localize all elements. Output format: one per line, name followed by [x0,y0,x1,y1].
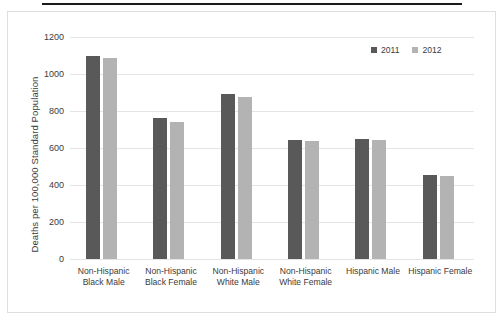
x-axis-category-label: Hispanic Female [403,266,477,277]
x-axis-category-label: Non-HispanicWhite Male [201,266,275,288]
bar-2011-hispanic-female[interactable] [423,175,437,259]
x-axis-category-label-line: Non-Hispanic [134,266,208,277]
bar-group: Hispanic Female [407,37,474,259]
bar-group: Non-HispanicBlack Female [137,37,204,259]
bar-2012-hispanic-male[interactable] [372,140,386,259]
x-axis-category-label-line: Non-Hispanic [201,266,275,277]
x-axis-category-label-line: White Female [269,277,343,288]
y-axis-tick-label: 0 [59,254,64,264]
gridline [70,259,474,260]
bar-2011-non-hispanic-black-female[interactable] [153,118,167,259]
bar-2011-non-hispanic-white-male[interactable] [221,94,235,259]
x-axis-category-label-line: Hispanic Male [336,266,410,277]
bar-group: Non-HispanicWhite Male [205,37,272,259]
y-axis-tick-label: 800 [49,106,64,116]
bar-2012-non-hispanic-white-male[interactable] [238,97,252,259]
bar-2011-non-hispanic-white-female[interactable] [288,140,302,259]
plot-area: 020040060080010001200Non-HispanicBlack M… [70,37,474,259]
chart-panel: Deaths per 100,000 Standard Population 2… [7,11,496,313]
y-axis-tick-label: 1000 [44,69,64,79]
bar-2012-non-hispanic-white-female[interactable] [305,141,319,259]
bar-2012-hispanic-female[interactable] [440,176,454,259]
x-axis-category-label-line: Hispanic Female [403,266,477,277]
top-horizontal-rule [42,3,462,5]
y-axis-title: Deaths per 100,000 Standard Population [29,65,40,265]
x-axis-category-label: Non-HispanicBlack Male [67,266,141,288]
x-axis-category-label: Non-HispanicWhite Female [269,266,343,288]
x-axis-category-label: Hispanic Male [336,266,410,277]
x-axis-category-label-line: Black Female [134,277,208,288]
bar-2012-non-hispanic-black-female[interactable] [170,122,184,259]
bar-2011-hispanic-male[interactable] [355,139,369,259]
bar-2011-non-hispanic-black-male[interactable] [86,56,100,260]
x-axis-category-label-line: White Male [201,277,275,288]
bar-group: Non-HispanicWhite Female [272,37,339,259]
bar-group: Non-HispanicBlack Male [70,37,137,259]
x-axis-category-label-line: Non-Hispanic [67,266,141,277]
x-axis-category-label-line: Black Male [67,277,141,288]
y-axis-tick-label: 600 [49,143,64,153]
y-axis-tick-label: 400 [49,180,64,190]
y-axis-tick-label: 1200 [44,32,64,42]
x-axis-category-label: Non-HispanicBlack Female [134,266,208,288]
y-axis-tick-label: 200 [49,217,64,227]
bar-2012-non-hispanic-black-male[interactable] [103,58,117,259]
bar-group: Hispanic Male [339,37,406,259]
chart-figure: Deaths per 100,000 Standard Population 2… [0,0,503,319]
x-axis-category-label-line: Non-Hispanic [269,266,343,277]
